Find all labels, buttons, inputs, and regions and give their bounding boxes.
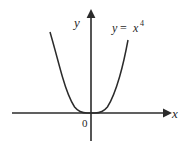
equation-operator: =: [120, 21, 127, 35]
equation-exponent: 4: [140, 19, 144, 28]
equation-variable: y: [111, 21, 118, 35]
graph-canvas: y x 0 y = x 4: [0, 0, 184, 148]
x-axis-label: x: [171, 106, 178, 121]
origin-label: 0: [82, 117, 88, 129]
graph-figure: y x 0 y = x 4: [0, 0, 184, 148]
y-axis-label: y: [72, 15, 80, 30]
equation-base: x: [132, 21, 139, 35]
figure-background: [0, 0, 184, 148]
